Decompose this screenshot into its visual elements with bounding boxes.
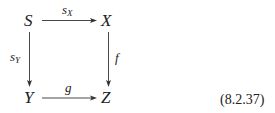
node-S: S xyxy=(24,11,33,30)
node-X: X xyxy=(100,11,112,30)
label-s-X: sX xyxy=(62,2,73,18)
node-Z: Z xyxy=(101,88,111,107)
label-g: g xyxy=(65,80,72,95)
arrow-bottom xyxy=(42,96,97,101)
arrow-top xyxy=(42,18,97,23)
arrow-right xyxy=(106,32,111,87)
label-f: f xyxy=(115,50,121,65)
arrow-left xyxy=(27,32,32,87)
label-s-Y: sY xyxy=(10,49,21,65)
equation-number: (8.2.37) xyxy=(220,92,265,108)
commutative-diagram: S X Y Z sX sY f g (8.2.37) xyxy=(0,0,275,113)
node-Y: Y xyxy=(24,88,35,107)
